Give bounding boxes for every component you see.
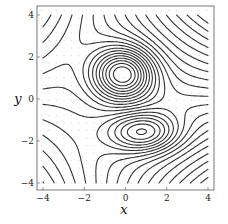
- x-axis-label: x: [120, 202, 128, 217]
- plot-frame: [37, 6, 214, 190]
- x-tick-label: −2: [78, 193, 91, 203]
- x-tick-label: −4: [36, 193, 50, 203]
- y-tick-label: −2: [21, 136, 34, 146]
- y-tick-label: −4: [21, 178, 35, 188]
- y-tick-label: 0: [28, 94, 34, 104]
- x-tick-label: 2: [164, 193, 170, 203]
- contour-plot: −4−2024 −4−2024 x y: [0, 0, 228, 224]
- x-tick-label: 4: [205, 193, 211, 203]
- y-tick-label: 2: [28, 52, 34, 62]
- y-axis-label: y: [13, 91, 22, 106]
- y-tick-label: 4: [28, 10, 34, 20]
